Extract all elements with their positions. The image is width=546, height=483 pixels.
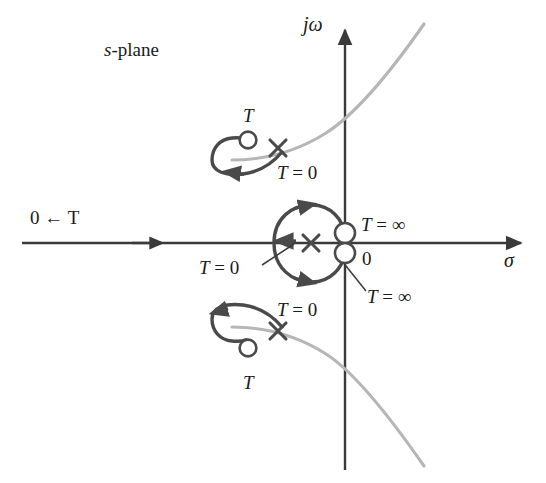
s-plane-suffix: -plane — [111, 39, 158, 60]
root-locus-figure: s-plane jω σ 0 ← T T T T = 0 T = 0 T = 0… — [0, 0, 546, 483]
lower-pole-T-equals-zero-label: T = 0 — [277, 300, 317, 319]
central-loop-lower-direction-arrow — [294, 278, 308, 282]
asymptote-curves-group — [232, 24, 424, 466]
real-axis-label: σ — [504, 250, 514, 270]
central-loop-upper-direction-arrow — [294, 205, 308, 208]
upper-branch-direction-arrow — [231, 173, 244, 175]
axes-group — [22, 30, 521, 470]
lower-zero-T-equals-infinity-label: T = ∞ — [367, 287, 411, 306]
upper-zero-T-equals-infinity-label: T = ∞ — [361, 215, 405, 234]
root-locus-drawing — [0, 0, 546, 483]
zero-marker-upper — [240, 132, 257, 149]
central-loop-upper-half — [274, 205, 345, 243]
zero-marker-origin-lower — [335, 243, 355, 263]
zero-marker-lower — [240, 340, 257, 357]
imaginary-axis-label: jω — [303, 14, 323, 34]
s-plane-label: s-plane — [104, 40, 159, 59]
upper-branch-T-label: T — [243, 106, 254, 125]
upper-pole-T-equals-zero-label: T = 0 — [277, 163, 317, 182]
central-loop-lower-half — [274, 243, 345, 282]
real-axis-left-annotation: 0 ← T — [30, 208, 79, 227]
asymptote-curve-upper — [232, 24, 424, 160]
asymptote-curve-lower — [232, 327, 424, 466]
lower-branch-T-label: T — [243, 373, 254, 392]
zero-marker-origin-upper — [335, 223, 355, 243]
origin-zero-label: 0 — [362, 249, 372, 268]
center-pole-T-equals-zero-label: T = 0 — [199, 258, 239, 277]
